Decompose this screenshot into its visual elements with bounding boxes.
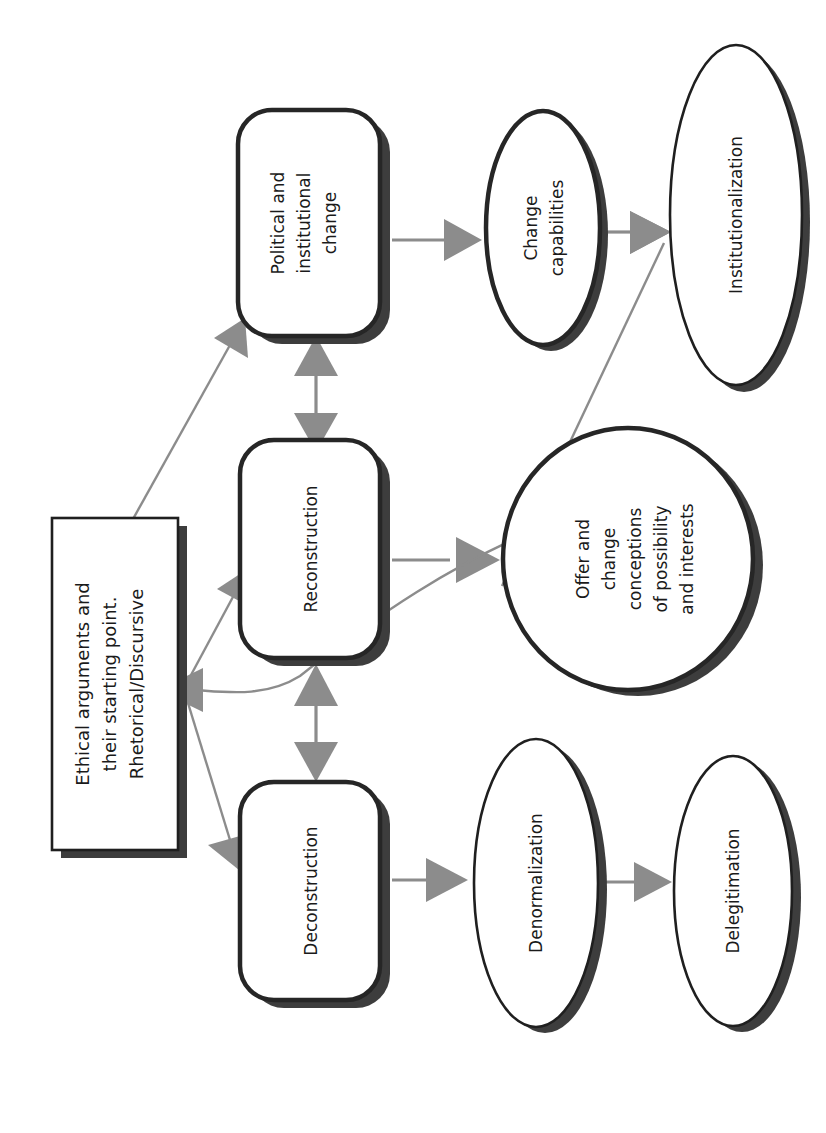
offer-change-line-4: of possibility	[651, 505, 671, 612]
edge-political-reconstruction	[294, 336, 338, 452]
node-deconstruction[interactable]: Deconstruction	[240, 782, 390, 1008]
edge-denormalization-to-delegitimation	[604, 862, 672, 902]
reconstruction-label: Reconstruction	[301, 485, 321, 612]
node-delegitimation[interactable]: Delegitimation	[674, 756, 801, 1032]
node-denormalization[interactable]: Denormalization	[474, 739, 607, 1033]
change-capabilities-line-2: capabilities	[547, 180, 567, 277]
source-box-line-1: Ethical arguments and	[72, 582, 93, 785]
source-box-line-3: Rhetorical/Discursive	[126, 589, 147, 780]
node-political-and-institutional-change[interactable]: Political and institutional change	[238, 110, 390, 344]
edge-political-to-change-capabilities	[392, 219, 482, 261]
denormalization-label: Denormalization	[526, 813, 546, 953]
node-institutionalization[interactable]: Institutionalization	[670, 45, 810, 392]
node-offer-and-change-conceptions[interactable]: Offer and change conceptions of possibil…	[503, 428, 763, 696]
political-line-1: Political and	[268, 172, 288, 275]
source-box-line-2: their starting point.	[99, 597, 120, 772]
political-line-2: institutional	[294, 173, 314, 274]
edge-reconstruction-to-offer-change	[392, 537, 500, 583]
edge-reconstruction-deconstruction	[294, 664, 338, 782]
offer-change-line-2: change	[599, 528, 619, 591]
edge-source-to-deconstruction	[184, 690, 247, 870]
node-reconstruction[interactable]: Reconstruction	[240, 440, 390, 666]
edge-source-to-political	[128, 318, 248, 528]
offer-change-line-5: and interests	[677, 503, 697, 615]
node-source-box[interactable]: Ethical arguments and their starting poi…	[52, 518, 187, 858]
deconstruction-label: Deconstruction	[301, 826, 321, 955]
institutionalization-label: Institutionalization	[726, 136, 746, 294]
offer-change-line-3: conceptions	[625, 508, 645, 611]
offer-change-line-1: Offer and	[573, 519, 593, 599]
diagram-canvas: Ethical arguments and their starting poi…	[0, 0, 826, 1133]
delegitimation-label: Delegitimation	[723, 828, 743, 953]
change-capabilities-line-1: Change	[521, 195, 541, 260]
flowchart-svg: Ethical arguments and their starting poi…	[0, 0, 826, 1133]
political-line-3: change	[320, 192, 340, 255]
edge-deconstruction-to-denormalization	[392, 858, 468, 902]
node-change-capabilities[interactable]: Change capabilities	[486, 111, 608, 351]
